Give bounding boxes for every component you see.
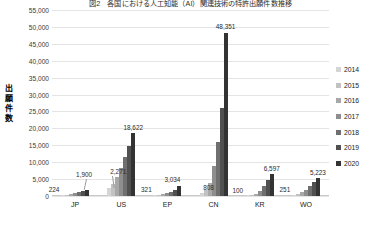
legend-swatch-icon <box>336 83 341 88</box>
data-label: 321 <box>141 186 152 193</box>
legend-item-2016[interactable]: 2016 <box>336 93 381 109</box>
bar-ep-2020[interactable] <box>177 186 181 196</box>
x-axis-tick-label-us: US <box>98 201 144 208</box>
data-label: 5,223 <box>310 169 326 176</box>
bar-kr-2020[interactable] <box>270 174 274 196</box>
y-axis-title-char: 件 <box>2 104 16 114</box>
data-label: 100 <box>232 187 243 194</box>
bar-us-2020[interactable] <box>131 133 135 196</box>
y-axis-tick-label: 40,000 <box>29 57 49 64</box>
bars <box>200 10 228 196</box>
legend-swatch-icon <box>336 98 341 103</box>
data-label: 18,622 <box>123 124 143 131</box>
legend-label: 2016 <box>344 97 359 104</box>
plot-area: 05,00010,00015,00020,00025,00030,00035,0… <box>52 10 329 196</box>
data-label: 2,271 <box>110 168 126 175</box>
y-axis-title-char: 出 <box>2 84 16 94</box>
x-axis-tick-label-jp: JP <box>52 201 98 208</box>
legend-swatch-icon <box>336 130 341 135</box>
bar-group-wo: WO <box>283 10 329 196</box>
y-axis-title-char: 数 <box>2 114 16 124</box>
chart-title: 図2 各国における人工知能（AI）関連技術の特許出願件数推移 <box>0 0 381 8</box>
y-axis-tick-label: 5,000 <box>32 176 49 183</box>
bars <box>292 10 320 196</box>
data-label: 251 <box>280 186 291 193</box>
y-axis-tick-label: 30,000 <box>29 91 49 98</box>
legend-swatch-icon <box>336 67 341 72</box>
y-axis-tick-label: 55,000 <box>29 7 49 14</box>
gridline <box>52 196 329 197</box>
bar-group-ep: EP <box>144 10 190 196</box>
legend-label: 2017 <box>344 113 359 120</box>
legend-label: 2015 <box>344 82 359 89</box>
data-label: 224 <box>49 186 60 193</box>
y-axis-tick-label: 35,000 <box>29 74 49 81</box>
bar-group-jp: JP <box>52 10 98 196</box>
x-axis-tick-label-ep: EP <box>144 201 190 208</box>
legend-item-2019[interactable]: 2019 <box>336 140 381 156</box>
bar-groups: JPUSEPCNKRWO <box>52 10 329 196</box>
chart-legend: 2014201520162017201820192020 <box>336 62 381 171</box>
bars <box>153 10 181 196</box>
y-axis-tick-label: 15,000 <box>29 142 49 149</box>
bar-cn-2020[interactable] <box>224 33 228 197</box>
legend-item-2020[interactable]: 2020 <box>336 156 381 172</box>
y-axis-tick-label: 50,000 <box>29 23 49 30</box>
data-label: 6,597 <box>264 165 280 172</box>
data-label: 808 <box>203 184 214 191</box>
bar-wo-2020[interactable] <box>316 178 320 196</box>
legend-swatch-icon <box>336 145 341 150</box>
y-axis-title-char: 願 <box>2 94 16 104</box>
legend-swatch-icon <box>336 114 341 119</box>
x-axis-tick-label-cn: CN <box>191 201 237 208</box>
data-label: 3,034 <box>164 176 180 183</box>
legend-item-2014[interactable]: 2014 <box>336 62 381 78</box>
y-axis-tick-label: 10,000 <box>29 159 49 166</box>
legend-label: 2018 <box>344 129 359 136</box>
chart-container: 図2 各国における人工知能（AI）関連技術の特許出願件数推移 出 願 件 数 0… <box>0 0 381 227</box>
x-axis-tick-label-kr: KR <box>237 201 283 208</box>
y-axis-tick-label: 20,000 <box>29 125 49 132</box>
data-label: 48,351 <box>216 23 236 30</box>
legend-item-2015[interactable]: 2015 <box>336 78 381 94</box>
data-label: 1,900 <box>76 171 92 178</box>
y-axis-tick-label: 25,000 <box>29 108 49 115</box>
y-axis-tick-label: 45,000 <box>29 40 49 47</box>
legend-swatch-icon <box>336 161 341 166</box>
bar-jp-2020[interactable] <box>85 190 89 196</box>
y-axis-title: 出 願 件 数 <box>2 84 16 124</box>
x-axis-tick-label-wo: WO <box>283 201 329 208</box>
bar-group-cn: CN <box>191 10 237 196</box>
y-axis-tick-label: 0 <box>45 193 49 200</box>
legend-label: 2014 <box>344 66 359 73</box>
legend-label: 2019 <box>344 144 359 151</box>
legend-item-2018[interactable]: 2018 <box>336 124 381 140</box>
bars <box>61 10 89 196</box>
legend-item-2017[interactable]: 2017 <box>336 109 381 125</box>
legend-label: 2020 <box>344 160 359 167</box>
